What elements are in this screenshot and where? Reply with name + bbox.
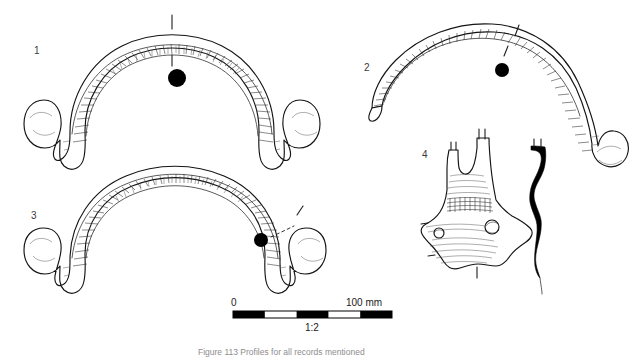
figure-3-outline [24,166,326,293]
scale-zero-label: 0 [231,297,237,308]
figure-1-number: 1 [34,45,40,56]
figure-1-section-dot [168,69,186,87]
figure-4-number: 4 [422,149,428,160]
scale-seg-1 [233,311,265,318]
figure-2-section-dot [495,63,509,77]
figure-2-hatching [374,29,592,151]
scale-seg-5 [360,311,392,318]
figure-2-section-tick-bottom [504,46,508,56]
scale-max-label: 100 mm [346,297,382,308]
figure-2-outline [372,24,628,167]
scale-ratio-label: 1:2 [305,322,319,333]
figure-3-section-dot [254,233,268,247]
figure-3-number: 3 [31,210,37,221]
figure-2-number: 2 [364,62,370,73]
figure-2-left-terminal [369,106,382,121]
figure-4-profile-tail [540,278,542,294]
figure-4-side-profile [530,146,546,278]
scale-seg-3 [297,311,329,318]
figure-3-section-tick-outer [297,206,303,215]
plate-caption: Figure 113 Profiles for all records ment… [198,347,448,357]
figure-4-perforation-left [434,228,444,238]
figure-4-outline [421,138,532,269]
scale-bar [233,311,392,318]
